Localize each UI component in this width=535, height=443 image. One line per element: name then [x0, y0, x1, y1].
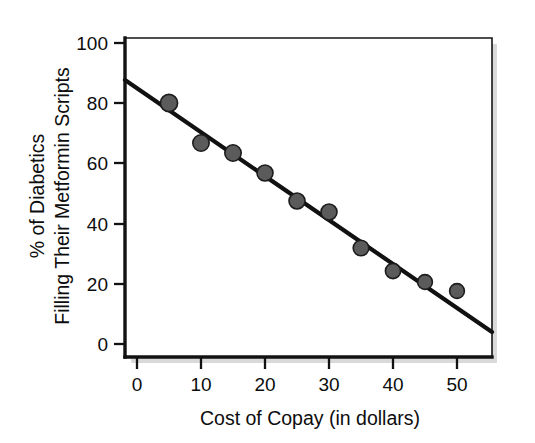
y-tick-label: 80 [87, 93, 108, 114]
scatter-plot: 100 80 60 40 20 0 0 10 20 30 40 50 Cost … [0, 0, 535, 443]
chart-figure: 100 80 60 40 20 0 0 10 20 30 40 50 Cost … [0, 0, 535, 443]
data-point [160, 94, 177, 111]
data-point [289, 193, 305, 209]
x-axis-title: Cost of Copay (in dollars) [200, 407, 420, 429]
data-point [225, 145, 241, 161]
data-point [418, 275, 433, 290]
x-tick-label: 50 [446, 374, 467, 395]
x-tick-label: 30 [318, 374, 339, 395]
y-axis: 100 80 60 40 20 0 [76, 33, 125, 357]
data-point [450, 284, 465, 299]
plot-canvas [125, 38, 492, 357]
data-point [257, 165, 273, 181]
data-point [193, 135, 209, 151]
x-tick-label: 20 [254, 374, 275, 395]
data-point [321, 204, 337, 220]
x-tick-label: 40 [382, 374, 403, 395]
y-tick-label: 20 [87, 274, 108, 295]
y-axis-title-line1: % of Diabetics [26, 133, 48, 258]
y-tick-label: 40 [87, 214, 108, 235]
x-tick-label: 10 [190, 374, 211, 395]
y-axis-title-line2: Filling Their Metformin Scripts [51, 67, 73, 325]
y-axis-title: % of Diabetics Filling Their Metformin S… [26, 67, 73, 325]
data-point [385, 263, 400, 278]
y-tick-label: 100 [76, 33, 108, 54]
x-tick-label: 0 [132, 374, 143, 395]
y-tick-label: 60 [87, 153, 108, 174]
y-tick-label: 0 [97, 334, 108, 355]
data-point [353, 240, 369, 256]
